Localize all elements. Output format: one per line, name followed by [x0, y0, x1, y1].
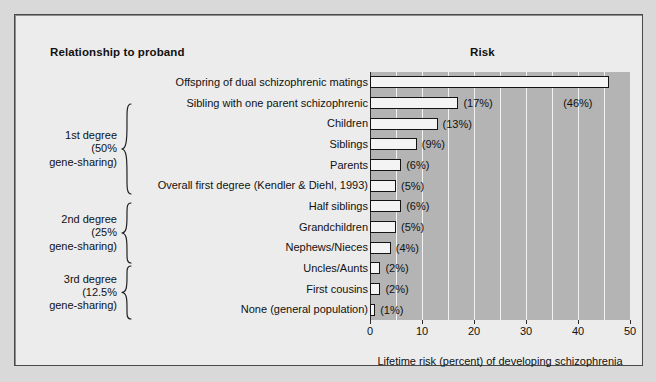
curly-brace-icon — [120, 103, 132, 195]
bar — [370, 283, 380, 295]
bar — [370, 159, 401, 171]
bar — [370, 242, 391, 254]
bar — [370, 262, 380, 274]
x-tick — [474, 320, 475, 324]
degree-group-caption-line: gene-sharing) — [33, 299, 117, 312]
degree-group-caption-line: 3rd degree — [33, 273, 117, 286]
category-label: Sibling with one parent schizophrenic — [55, 93, 368, 114]
bar-value-label: (6%) — [406, 159, 429, 171]
gridline — [500, 72, 501, 320]
bar-value-label: (13%) — [443, 118, 472, 130]
bar-value-label: (9%) — [422, 138, 445, 150]
curly-brace-icon — [120, 202, 132, 264]
degree-group-caption-line: gene-sharing) — [33, 240, 117, 253]
bar — [370, 97, 458, 109]
x-tick-label: 40 — [572, 325, 584, 337]
x-tick-label: 50 — [624, 325, 636, 337]
x-tick-label: 0 — [367, 325, 373, 337]
bar-value-label: (17%) — [463, 97, 492, 109]
category-label: Offspring of dual schizophrenic matings — [55, 72, 368, 93]
gridline — [422, 72, 423, 320]
bar-value-label: (4%) — [396, 242, 419, 254]
gridline — [526, 72, 527, 320]
bar-value-label: (2%) — [385, 262, 408, 274]
degree-group-caption: 3rd degree(12.5%gene-sharing) — [33, 273, 117, 313]
figure-frame: Relationship to proband Risk Offspring o… — [14, 14, 643, 366]
bar — [370, 138, 417, 150]
degree-group-caption-line: 1st degree — [33, 129, 117, 142]
degree-group-caption: 2nd degree(25%gene-sharing) — [33, 213, 117, 253]
bar — [370, 304, 375, 316]
bar-value-label: (46%) — [563, 97, 592, 109]
column-header-risk: Risk — [470, 46, 495, 58]
figure-canvas: Relationship to proband Risk Offspring o… — [0, 0, 656, 382]
bar — [370, 200, 401, 212]
degree-group-caption: 1st degree(50%gene-sharing) — [33, 129, 117, 169]
x-tick-label: 20 — [468, 325, 480, 337]
x-tick-label: 30 — [520, 325, 532, 337]
bar — [370, 118, 438, 130]
degree-group-caption-line: gene-sharing) — [33, 156, 117, 169]
bar — [370, 180, 396, 192]
category-label: Overall first degree (Kendler & Diehl, 1… — [55, 175, 368, 196]
bar-value-label: (6%) — [406, 200, 429, 212]
plot-area: (46%)(17%)(13%)(9%)(6%)(5%)(6%)(5%)(4%)(… — [370, 72, 630, 320]
x-axis-title: Lifetime risk (percent) of developing sc… — [370, 355, 630, 367]
bar-value-label: (5%) — [401, 180, 424, 192]
x-tick — [630, 320, 631, 324]
degree-group-caption-line: 2nd degree — [33, 213, 117, 226]
degree-group-caption-line: (25% — [33, 226, 117, 239]
x-tick — [422, 320, 423, 324]
gridline — [578, 72, 579, 320]
curly-brace-icon — [120, 265, 132, 320]
bar — [370, 221, 396, 233]
gridline — [552, 72, 553, 320]
column-header-relationship: Relationship to proband — [50, 46, 185, 58]
x-tick — [526, 320, 527, 324]
gridline — [604, 72, 605, 320]
x-axis: 01020304050 — [370, 320, 630, 336]
x-tick — [578, 320, 579, 324]
x-tick-label: 10 — [416, 325, 428, 337]
bar-value-label: (2%) — [385, 283, 408, 295]
gridline — [448, 72, 449, 320]
x-tick — [370, 320, 371, 324]
bar-value-label: (5%) — [401, 221, 424, 233]
bar-value-label: (1%) — [380, 304, 403, 316]
degree-group-caption-line: (12.5% — [33, 286, 117, 299]
gridline — [474, 72, 475, 320]
bar — [370, 76, 609, 88]
degree-group-caption-line: (50% — [33, 142, 117, 155]
